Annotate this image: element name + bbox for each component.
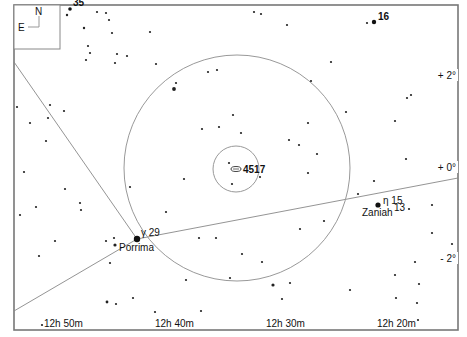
star [259, 176, 261, 178]
star [35, 206, 37, 208]
star-16-label: 16 [378, 11, 390, 22]
star-13-label: 13 [394, 202, 406, 213]
star [373, 180, 375, 182]
star [201, 128, 203, 130]
zaniah-label: Zaniah [362, 207, 393, 218]
star [155, 63, 157, 65]
star [349, 289, 351, 291]
star [241, 253, 243, 255]
star [106, 301, 109, 304]
star [154, 311, 156, 313]
star [149, 31, 151, 33]
star [357, 193, 359, 195]
star [228, 162, 230, 164]
star [109, 262, 111, 264]
star [231, 183, 233, 185]
star [105, 240, 107, 242]
star [288, 139, 290, 141]
star [323, 220, 325, 222]
star [240, 132, 242, 134]
star-chart: γ 29Porrimaη 1513Zaniah1635 4517 NE 12h … [0, 0, 467, 337]
dec-tick-label: + 2° [438, 70, 456, 81]
star [286, 24, 288, 26]
star [38, 255, 40, 257]
star [229, 277, 231, 279]
star [261, 261, 263, 263]
star [115, 303, 117, 305]
star [183, 178, 185, 180]
star [23, 171, 25, 173]
star-35 [68, 7, 72, 11]
ra-tick-label: 12h 50m [44, 318, 83, 329]
star [281, 298, 283, 300]
star [316, 153, 318, 155]
star [366, 22, 368, 24]
star [431, 204, 433, 206]
compass-box: NE [14, 5, 60, 49]
star [200, 310, 202, 312]
star [416, 302, 418, 304]
star [431, 232, 433, 234]
star [132, 297, 134, 299]
star [83, 27, 85, 29]
dec-tick-label: - 2° [440, 253, 456, 264]
star [299, 228, 301, 230]
star [29, 122, 31, 124]
star [218, 126, 220, 128]
star [114, 62, 116, 64]
ra-tick-label: 12h 20m [377, 318, 416, 329]
star-35-label: 35 [73, 0, 85, 8]
star [345, 111, 347, 113]
star [451, 243, 453, 245]
porrima-designation: γ 29 [141, 227, 160, 238]
star [66, 14, 68, 16]
star [185, 279, 187, 281]
star [96, 11, 98, 13]
star [41, 324, 43, 326]
dec-tick-label: + 0° [438, 162, 456, 173]
star [19, 214, 21, 216]
star [87, 45, 89, 47]
star [16, 106, 18, 108]
star [54, 240, 56, 242]
star [253, 11, 255, 13]
star [113, 237, 115, 239]
star [47, 117, 49, 119]
star [232, 114, 234, 116]
ra-tick-label: 12h 40m [155, 318, 194, 329]
star-16 [372, 20, 376, 24]
star [165, 211, 167, 213]
ra-tick-label: 12h 30m [266, 318, 305, 329]
ngc-4517-label: 4517 [243, 164, 266, 175]
star [216, 69, 218, 71]
star [307, 122, 309, 124]
star [172, 87, 176, 91]
star [85, 59, 87, 61]
star [394, 274, 396, 276]
star [198, 237, 200, 239]
star [49, 104, 51, 106]
star [418, 283, 420, 285]
star [289, 282, 291, 284]
compass-north-label: N [35, 6, 42, 17]
star [310, 80, 312, 82]
star [129, 186, 131, 188]
star [408, 208, 410, 210]
star [79, 202, 81, 204]
compass-east-label: E [18, 22, 25, 33]
star [80, 209, 82, 211]
star [215, 237, 217, 239]
star [64, 188, 66, 190]
star [113, 243, 116, 246]
star [89, 52, 91, 54]
star [105, 12, 107, 14]
star [126, 55, 128, 57]
star [271, 283, 274, 286]
star [394, 120, 396, 122]
star [417, 319, 419, 321]
star [330, 61, 332, 63]
star [260, 13, 262, 15]
star [207, 71, 209, 73]
star [111, 32, 113, 34]
star [298, 144, 300, 146]
